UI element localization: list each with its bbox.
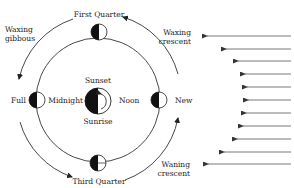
label-waxing-gibbous-2: gibbous <box>5 34 35 43</box>
label-sunset: Sunset <box>85 76 111 85</box>
sunlight-rays <box>207 36 291 164</box>
label-sunrise: Sunrise <box>83 117 113 126</box>
moon-full <box>29 92 45 108</box>
label-midnight: Midnight <box>48 96 83 105</box>
label-waxing-crescent-2: crescent <box>158 37 191 46</box>
label-waning-crescent-1: Waning <box>162 160 191 169</box>
earth <box>85 88 111 114</box>
label-noon: Noon <box>119 96 140 105</box>
label-third-quarter: Third Quarter <box>72 177 125 186</box>
label-waxing-crescent-1: Waxing <box>163 28 191 37</box>
moon-third-quarter <box>90 155 106 171</box>
moon-new <box>151 92 167 108</box>
label-waxing-gibbous-1: Waxing <box>5 25 33 34</box>
label-new: New <box>175 96 193 105</box>
arrow-to-third-quarter <box>20 122 72 177</box>
label-first-quarter: First Quarter <box>74 10 125 19</box>
moon-phase-diagram: First Quarter Full New Third Quarter Sun… <box>0 0 294 188</box>
label-waning-crescent-2: crescent <box>157 169 190 178</box>
label-full: Full <box>11 96 26 105</box>
moon-first-quarter <box>91 24 107 40</box>
